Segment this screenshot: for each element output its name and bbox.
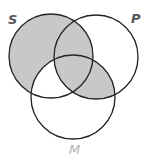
label-m: M [69, 142, 80, 157]
venn-diagram: S P M [0, 0, 150, 162]
label-p: P [131, 11, 141, 26]
label-s: S [8, 12, 17, 27]
